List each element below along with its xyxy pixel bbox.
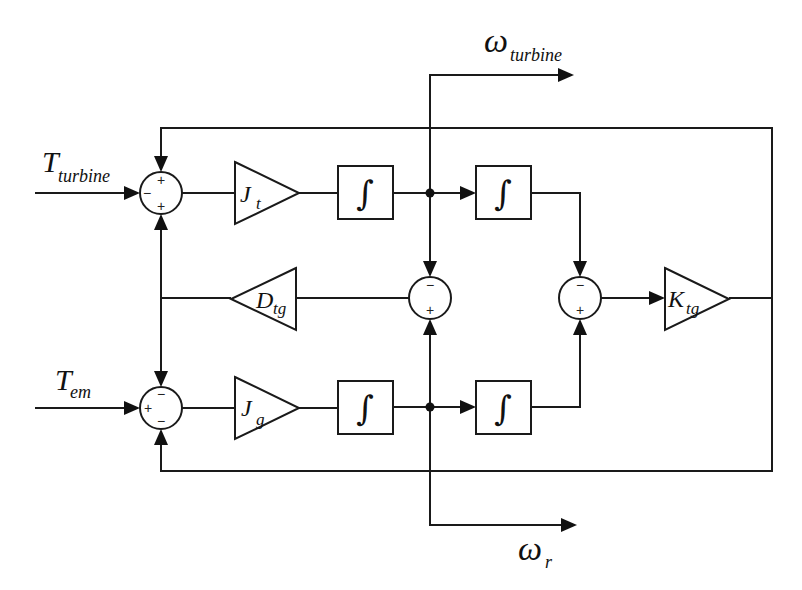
arrow-head — [460, 400, 476, 414]
gain-block-ktg: K tg — [665, 268, 729, 330]
sign-top: − — [576, 277, 584, 293]
integral-icon: ∫ — [356, 388, 374, 428]
drive-train-block-diagram: + − + − + − − + − + J t J g D tg K tg — [0, 0, 802, 590]
junction-dot-bottom — [426, 403, 435, 412]
label-omega-r: ω r — [518, 530, 553, 572]
label-omega-turbine: ω turbine — [484, 22, 562, 65]
sign-top: + — [157, 172, 165, 188]
gain-block-dtg: D tg — [231, 268, 296, 330]
integrator-block-3: ∫ — [338, 381, 393, 434]
sum-junction-bottom-left: − + − — [140, 386, 182, 429]
label-t-turbine: T turbine — [42, 145, 110, 186]
arrow-head — [460, 186, 476, 200]
omega-r-sub: r — [545, 552, 553, 572]
arrow-head — [154, 156, 168, 172]
arrow-head — [573, 319, 587, 335]
sign-bottom: − — [157, 413, 165, 429]
arrow-head — [154, 214, 168, 230]
omega-r-main: ω — [518, 530, 542, 567]
sign-bottom: + — [426, 302, 434, 318]
sum-junction-right: − + — [559, 277, 601, 319]
arrow-head — [124, 401, 140, 415]
arrow-head — [124, 186, 140, 200]
gain-ktg-main: K — [667, 286, 686, 312]
arrow-head — [154, 371, 168, 387]
integrator-block-2: ∫ — [476, 166, 531, 219]
t-turbine-sub: turbine — [58, 166, 110, 186]
wire-int4-to-right-sum — [531, 329, 580, 407]
sign-top: − — [157, 386, 165, 402]
omega-turbine-sub: turbine — [510, 45, 562, 65]
arrow-head — [423, 261, 437, 277]
integrator-block-1: ∫ — [338, 166, 393, 219]
junction-dot-top — [426, 189, 435, 198]
label-t-em: T em — [55, 363, 91, 402]
gain-jg-sub: g — [256, 410, 265, 429]
sign-top: − — [426, 277, 434, 293]
arrow-head — [573, 261, 587, 277]
sign-left: − — [143, 185, 151, 201]
sign-bottom: + — [157, 198, 165, 214]
arrow-head — [154, 429, 168, 445]
gain-jt-main: J — [240, 181, 252, 207]
arrow-head — [649, 291, 665, 305]
gain-ktg-sub: tg — [686, 299, 699, 318]
sum-junction-top-left: + − + — [140, 172, 182, 214]
arrow-head — [561, 518, 577, 532]
arrow-head — [558, 68, 574, 82]
integral-icon: ∫ — [494, 388, 512, 428]
gain-jg-main: J — [241, 395, 253, 421]
t-em-sub: em — [70, 382, 91, 402]
integral-icon: ∫ — [494, 173, 512, 213]
gain-block-jg: J g — [235, 377, 299, 439]
gain-dtg-main: D — [255, 287, 273, 313]
sum-junction-middle: − + — [409, 277, 451, 319]
arrow-head — [423, 319, 437, 335]
sign-bottom: + — [576, 302, 584, 318]
omega-turbine-main: ω — [484, 22, 508, 59]
integrator-block-4: ∫ — [476, 381, 531, 434]
wire-int2-to-right-sum — [531, 193, 580, 267]
sign-left: + — [144, 400, 152, 416]
gain-dtg-sub: tg — [273, 299, 286, 318]
integral-icon: ∫ — [356, 173, 374, 213]
gain-block-jt: J t — [235, 162, 299, 224]
